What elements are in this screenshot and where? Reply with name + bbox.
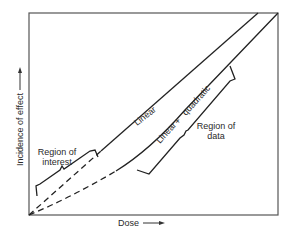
linear-quadratic-label-part2: quadratic <box>180 83 213 118</box>
roi-line2: interest <box>32 157 82 167</box>
y-axis-arrowhead-icon <box>18 67 22 73</box>
linear-quadratic-label-part1: Linear <box>154 120 178 145</box>
region-of-data-label: Region of data <box>191 121 241 141</box>
dose-response-diagram: Linear Linear + quadratic Incidence of e… <box>0 0 295 235</box>
region-of-data-bracket <box>137 66 235 174</box>
x-axis-arrowhead-icon <box>159 221 165 225</box>
region-of-interest-label: Region of interest <box>32 147 82 167</box>
x-axis-label: Dose <box>118 218 139 228</box>
y-axis-label: Incidence of effect <box>15 93 25 166</box>
roi-line1: Region of <box>32 147 82 157</box>
linear-label: Linear <box>132 104 158 127</box>
linear-quadratic-curve-dashed <box>29 171 116 215</box>
rod-line2: data <box>191 131 241 141</box>
rod-line1: Region of <box>191 121 241 131</box>
